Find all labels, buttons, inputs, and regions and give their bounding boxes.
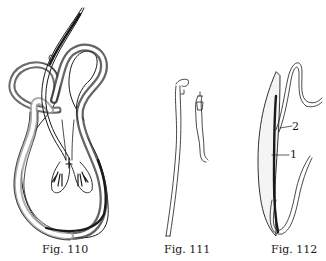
fig110-bursa [51, 162, 92, 193]
fig112-small-worm-lower [273, 156, 310, 230]
figure-111-caption: Fig. 111 [164, 243, 210, 256]
fig112-callout-1: 1 [290, 148, 297, 161]
fig112-leader-2 [280, 126, 292, 128]
illustration-plate [0, 0, 326, 261]
figure-111-drawing [166, 79, 208, 236]
fig112-callout-2: 2 [292, 120, 299, 133]
figure-110-drawing [12, 8, 108, 240]
figure-112-caption: Fig. 112 [271, 243, 317, 256]
figure-110-caption: Fig. 110 [42, 243, 88, 256]
fig111-long-worm [166, 79, 189, 236]
